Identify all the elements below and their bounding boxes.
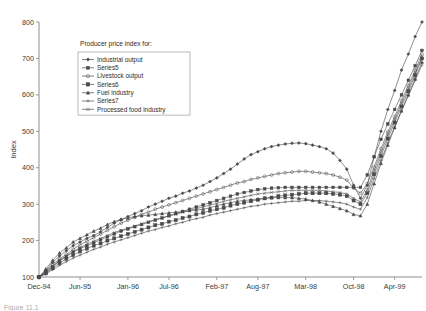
data-point-marker [120, 235, 123, 238]
data-point-marker [297, 141, 300, 144]
data-point-marker [270, 145, 273, 148]
data-point-marker [215, 212, 218, 215]
data-point-marker [161, 222, 164, 225]
data-point-marker [311, 186, 314, 189]
data-point-marker [304, 186, 307, 189]
data-point-marker [379, 130, 382, 133]
data-point-marker [87, 66, 90, 69]
data-point-marker [345, 203, 348, 206]
data-point-marker [85, 233, 88, 236]
data-point-marker [229, 204, 232, 207]
data-point-marker [202, 211, 205, 214]
data-point-marker [147, 230, 150, 233]
x-axis-tick-label: Jun-95 [69, 282, 91, 291]
data-point-marker [72, 240, 75, 243]
legend-item-label: Industrial output [97, 56, 143, 64]
data-point-marker [85, 247, 88, 250]
data-point-marker [284, 186, 287, 189]
data-point-marker [181, 216, 184, 219]
y-axis-tick-label: 300 [22, 200, 34, 209]
x-axis-tick-label: Jan-96 [117, 282, 139, 291]
legend-item-label: Series7 [97, 97, 119, 104]
x-axis-tick-label: Mar-98 [294, 282, 317, 291]
data-point-marker [277, 144, 280, 147]
data-point-marker [318, 192, 321, 195]
data-point-marker [277, 201, 280, 204]
y-axis-tick-label: 400 [22, 163, 34, 172]
data-point-marker [99, 242, 102, 245]
data-point-marker [304, 192, 307, 195]
data-point-marker [311, 192, 314, 195]
data-point-marker [167, 197, 170, 200]
data-point-marker [215, 208, 218, 211]
data-point-marker [161, 200, 164, 203]
data-point-marker [140, 228, 143, 231]
data-point-marker [386, 123, 389, 126]
data-point-marker [332, 186, 335, 189]
data-point-marker [86, 83, 89, 86]
data-point-marker [113, 237, 116, 240]
data-point-marker [174, 195, 177, 198]
data-point-marker [147, 206, 150, 209]
data-point-marker [85, 251, 88, 254]
data-point-marker [318, 145, 321, 148]
data-point-marker [325, 186, 328, 189]
data-point-marker [236, 193, 239, 196]
figure-caption: Figure 11.1 [4, 304, 39, 311]
data-point-marker [208, 214, 211, 217]
data-point-marker [345, 186, 348, 189]
data-point-marker [352, 213, 355, 216]
y-axis-tick-label: 600 [22, 90, 34, 99]
data-point-marker [126, 232, 129, 235]
data-point-marker [72, 254, 75, 257]
data-point-marker [154, 224, 157, 227]
legend-title: Producer price index for: [80, 40, 152, 48]
data-point-marker [78, 237, 81, 240]
data-point-marker [229, 195, 232, 198]
data-point-marker [284, 200, 287, 203]
data-point-marker [298, 186, 301, 189]
data-point-marker [420, 20, 423, 23]
data-point-marker [92, 248, 95, 251]
data-point-marker [222, 206, 225, 209]
data-point-marker [195, 217, 198, 220]
data-point-marker [140, 232, 143, 235]
data-point-marker [318, 186, 321, 189]
data-point-marker [393, 108, 396, 111]
data-point-marker [291, 186, 294, 189]
data-point-marker [250, 190, 253, 193]
data-point-marker [120, 238, 123, 241]
data-point-marker [113, 240, 116, 243]
data-point-marker [393, 89, 396, 92]
data-point-marker [106, 243, 109, 246]
data-point-marker [421, 49, 424, 52]
data-point-marker [421, 53, 424, 56]
data-point-marker [222, 211, 225, 214]
data-point-marker [249, 205, 252, 208]
data-point-marker [414, 64, 417, 67]
producer-price-index-chart: 100200300400500600700800IndexDec-94Jun-9… [0, 0, 426, 311]
data-point-marker [270, 202, 273, 205]
data-point-marker [339, 186, 342, 189]
data-point-marker [311, 144, 314, 147]
legend-item-label: Series5 [97, 64, 119, 71]
data-point-marker [208, 209, 211, 212]
data-point-marker [359, 186, 362, 189]
data-point-marker [174, 219, 177, 222]
y-axis-title: Index [9, 140, 18, 159]
data-point-marker [126, 236, 129, 239]
data-point-marker [373, 155, 376, 158]
data-point-marker [270, 187, 273, 190]
data-point-marker [78, 240, 81, 243]
data-point-marker [263, 147, 266, 150]
x-axis-tick-label: Feb-97 [205, 282, 228, 291]
data-point-marker [352, 206, 355, 209]
data-point-marker [256, 204, 259, 207]
legend-item-label: Livestock output [97, 72, 143, 80]
data-point-marker [181, 221, 184, 224]
data-point-marker [400, 69, 403, 72]
x-axis-tick-label: Dec-94 [27, 282, 50, 291]
data-point-marker [167, 224, 170, 227]
legend-item-label: Series6 [97, 81, 119, 88]
data-point-marker [188, 215, 191, 218]
